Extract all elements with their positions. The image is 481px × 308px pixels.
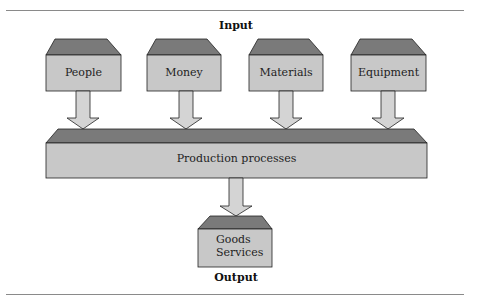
output-label-services: Services bbox=[216, 246, 263, 259]
input-label-people: People bbox=[46, 66, 121, 79]
arrow-down-icon bbox=[170, 91, 202, 129]
input-box-materials bbox=[249, 39, 323, 91]
output-heading: Output bbox=[206, 271, 266, 284]
arrow-down-icon bbox=[372, 91, 404, 129]
input-box-money bbox=[147, 39, 221, 91]
arrow-down-icon bbox=[67, 91, 99, 129]
output-label-goods: Goods bbox=[216, 233, 251, 246]
input-label-equipment: Equipment bbox=[351, 66, 426, 79]
input-label-materials: Materials bbox=[249, 66, 323, 79]
arrow-down-icon bbox=[270, 91, 302, 129]
arrow-down-icon bbox=[220, 178, 252, 216]
input-box-people bbox=[46, 39, 121, 91]
input-label-money: Money bbox=[147, 66, 221, 79]
process-label: Production processes bbox=[46, 152, 427, 165]
input-box-equipment bbox=[351, 39, 426, 91]
input-heading: Input bbox=[206, 19, 266, 32]
